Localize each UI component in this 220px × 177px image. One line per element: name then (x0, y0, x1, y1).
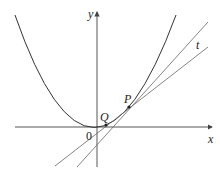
point-q-label: Q (100, 111, 109, 123)
x-axis-label: x (208, 133, 213, 145)
tangent-label: t (196, 39, 199, 51)
y-axis-label: y (88, 8, 93, 20)
point-p-label: P (124, 93, 131, 105)
diagram-svg (0, 0, 220, 177)
tangent-line (55, 47, 208, 166)
origin-label: 0 (86, 130, 92, 142)
diagram-canvas: y x 0 P Q t (0, 0, 220, 177)
parabola-curve (15, 15, 176, 128)
